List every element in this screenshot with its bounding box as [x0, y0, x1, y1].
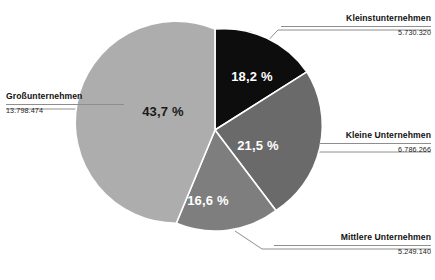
slice-percent-kleinstunternehmen: 18,2 % [231, 69, 273, 84]
callout-rule-mittlere-unternehmen [274, 245, 431, 246]
callout-mittlere-unternehmen: Mittlere Unternehmen 5.249.140 [274, 233, 431, 256]
callout-title-grossunternehmen: Großunternehmen [6, 92, 124, 101]
slice-percent-grossunternehmen: 43,7 % [142, 104, 184, 119]
callout-title-mittlere-unternehmen: Mittlere Unternehmen [274, 233, 431, 242]
callout-grossunternehmen: Großunternehmen 13.798.474 [6, 92, 124, 115]
callout-value-kleine-unternehmen: 6.786.266 [319, 146, 431, 154]
callout-value-kleinstunternehmen: 5.730.320 [281, 29, 431, 37]
callout-rule-kleinstunternehmen [281, 26, 431, 27]
callout-rule-grossunternehmen [6, 104, 124, 105]
callout-rule-kleine-unternehmen [319, 143, 431, 144]
callout-kleine-unternehmen: Kleine Unternehmen 6.786.266 [319, 131, 431, 154]
callout-title-kleinstunternehmen: Kleinstunternehmen [281, 14, 431, 23]
slice-percent-mittlere-unternehmen: 16,6 % [187, 193, 229, 208]
callout-value-mittlere-unternehmen: 5.249.140 [274, 248, 431, 256]
pie-chart: 18,2 % 21,5 % 16,6 % 43,7 % Kleinstunter… [0, 0, 435, 280]
callout-value-grossunternehmen: 13.798.474 [6, 107, 124, 115]
slice-percent-kleine-unternehmen: 21,5 % [237, 138, 279, 153]
callout-kleinstunternehmen: Kleinstunternehmen 5.730.320 [281, 14, 431, 37]
callout-title-kleine-unternehmen: Kleine Unternehmen [319, 131, 431, 140]
